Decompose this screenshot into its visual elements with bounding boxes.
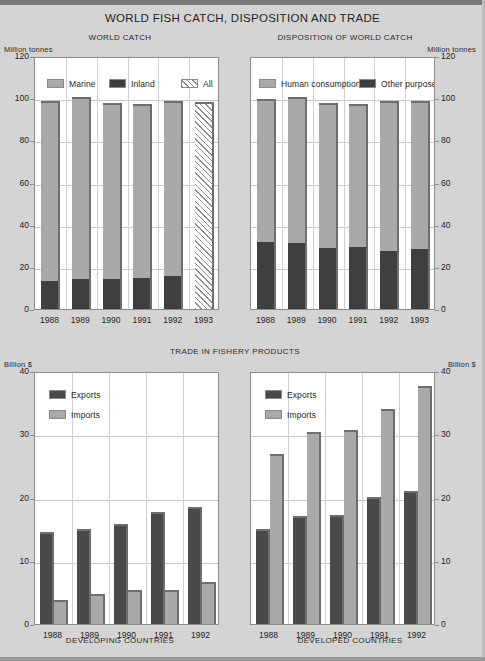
legend-swatch: [265, 410, 282, 419]
bar-right-edge: [397, 101, 399, 309]
bar-exports: [188, 507, 202, 624]
bar-right-edge: [430, 386, 432, 624]
y-axis-tick-mark: [30, 141, 34, 142]
legend-swatch: [109, 79, 126, 88]
bar-stacked: [103, 103, 122, 309]
x-axis-tick-label: 1988: [250, 315, 281, 325]
x-axis-tick-label: 1990: [312, 315, 343, 325]
bar-right-edge: [58, 101, 60, 309]
y-axis-tick-mark: [435, 435, 439, 436]
legend-item-imports: Imports: [265, 405, 316, 423]
top-border-strip: [0, 0, 485, 5]
x-axis-tick-label: 1988: [34, 315, 65, 325]
x-axis-tick-label: 1993: [188, 315, 219, 325]
bar-stacked: [41, 101, 60, 309]
y-axis-tick-mark: [435, 625, 439, 626]
y-axis-tick-label: 20: [2, 262, 29, 272]
bar-exports: [330, 515, 344, 624]
y-axis-tick-label: 30: [2, 429, 29, 439]
panel-title-world-catch: WORLD CATCH: [60, 33, 180, 42]
legend-swatch: [181, 79, 198, 88]
y-axis-tick-label: 40: [2, 366, 29, 376]
gridline-horizontal: [251, 269, 434, 270]
y-axis-tick-label: 20: [441, 262, 468, 272]
bar-stacked: [380, 101, 399, 309]
gridline-vertical: [399, 373, 400, 624]
bar-stacked: [319, 103, 338, 309]
bar-exports: [40, 532, 54, 624]
gridline-horizontal: [251, 227, 434, 228]
legend-swatch: [49, 410, 66, 419]
bar-right-edge: [274, 99, 276, 309]
bar-exports: [293, 516, 307, 624]
x-axis-tick-label: 1992: [157, 315, 188, 325]
legend-item-imports: Imports: [49, 405, 100, 423]
legend-label: Imports: [71, 410, 100, 420]
y-axis-tick-label: 0: [2, 304, 29, 314]
x-axis-tick-label: 1990: [96, 315, 127, 325]
gridline-horizontal: [251, 436, 434, 437]
legend-item-exports: Exports: [49, 385, 101, 403]
legend-item-marine: Marine: [47, 74, 96, 92]
y-axis-tick-label: 0: [2, 619, 29, 629]
legend-label: Imports: [287, 410, 316, 420]
y-axis-tick-label: 120: [2, 51, 29, 61]
plot-area: ExportsImports: [250, 372, 435, 625]
y-axis-tick-mark: [435, 310, 439, 311]
legend-label: All: [203, 79, 213, 89]
bar-exports: [77, 529, 91, 624]
y-axis-tick-label: 60: [441, 178, 468, 188]
bar-right-edge: [181, 101, 183, 309]
bar-exports: [256, 529, 270, 624]
x-axis-tick-label: 1991: [343, 315, 374, 325]
bar-stacked: [288, 97, 307, 309]
y-axis-tick-label: 10: [2, 556, 29, 566]
gridline-horizontal: [35, 100, 218, 101]
y-axis-tick-mark: [30, 226, 34, 227]
bar-imports: [91, 594, 105, 624]
gridline-horizontal: [35, 500, 218, 501]
gridline-horizontal: [251, 100, 434, 101]
bar-imports: [165, 590, 179, 624]
y-axis-tick-mark: [435, 99, 439, 100]
y-axis-tick-label: 100: [2, 93, 29, 103]
gridline-horizontal: [251, 142, 434, 143]
panel-title-trade: TRADE IN FISHERY PRODUCTS: [0, 347, 470, 356]
bar-right-edge: [366, 104, 368, 309]
y-axis-tick-label: 60: [2, 178, 29, 188]
y-axis-tick-label: 20: [441, 493, 468, 503]
bar-imports: [54, 600, 68, 624]
y-axis-tick-label: 0: [441, 304, 468, 314]
y-axis-tick-mark: [435, 57, 439, 58]
y-axis-tick-mark: [435, 499, 439, 500]
legend-label: Human consumption: [281, 79, 361, 89]
y-axis-tick-label: 0: [441, 619, 468, 629]
legend-label: Exports: [287, 390, 317, 400]
figure-root: WORLD FISH CATCH, DISPOSITION AND TRADE …: [0, 0, 485, 661]
gridline-vertical: [183, 373, 184, 624]
y-axis-tick-mark: [30, 184, 34, 185]
gridline-horizontal: [35, 227, 218, 228]
x-axis-tick-label: 1989: [281, 315, 312, 325]
legend-label: Other purposes: [381, 79, 435, 89]
y-axis-tick-label: 40: [441, 220, 468, 230]
y-axis-tick-mark: [435, 372, 439, 373]
plot-area: MarineInlandAll: [34, 57, 219, 310]
legend-label: Inland: [131, 79, 155, 89]
y-axis-tick-mark: [30, 310, 34, 311]
bar-imports: [128, 590, 142, 624]
chart-legend: ExportsImports: [265, 385, 375, 429]
legend-swatch: [47, 79, 64, 88]
y-axis-tick-mark: [30, 435, 34, 436]
bar-exports: [404, 491, 418, 624]
legend-item-human-consumption: Human consumption: [259, 74, 361, 92]
y-axis-tick-label: 10: [441, 556, 468, 566]
chart-legend: MarineInlandAll: [41, 68, 219, 98]
xaxis-title-developing: DEVELOPING COUNTRIES: [20, 636, 220, 645]
legend-label: Marine: [69, 79, 96, 89]
y-axis-tick-label: 40: [441, 366, 468, 376]
y-axis-tick-label: 40: [2, 220, 29, 230]
y-axis-tick-mark: [30, 562, 34, 563]
legend-swatch: [265, 390, 282, 399]
y-axis-tick-mark: [30, 372, 34, 373]
